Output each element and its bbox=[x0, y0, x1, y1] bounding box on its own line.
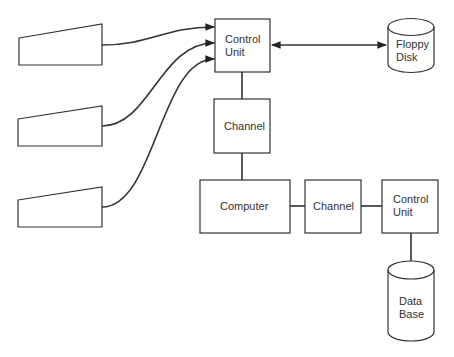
computer-label: Computer bbox=[220, 200, 268, 213]
control-unit-top-label: Control Unit bbox=[225, 33, 260, 59]
terminal-1 bbox=[19, 24, 102, 65]
channel-top-label: Channel bbox=[224, 120, 265, 133]
terminal-2 bbox=[18, 106, 102, 146]
floppy-disk-label: Floppy Disk bbox=[396, 38, 429, 64]
terminal-2-connector bbox=[102, 43, 214, 126]
control-unit-right-label: Control Unit bbox=[393, 193, 428, 219]
data-base-label: Data Base bbox=[399, 295, 424, 321]
terminal-3 bbox=[18, 187, 102, 227]
channel-right-label: Channel bbox=[313, 200, 354, 213]
terminal-1-connector bbox=[102, 27, 214, 45]
